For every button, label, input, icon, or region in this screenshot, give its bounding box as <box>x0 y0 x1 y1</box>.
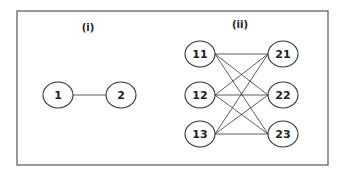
panel-2: (ii)111213212223 <box>185 19 298 147</box>
node-22: 22 <box>268 82 298 108</box>
panel-1: (i)12 <box>43 22 136 108</box>
panel-label: (i) <box>82 22 95 33</box>
node-11: 11 <box>185 41 215 67</box>
node-label: 13 <box>192 128 207 141</box>
node-21: 21 <box>268 41 298 67</box>
diagram-canvas: (i)12(ii)111213212223 <box>0 0 344 172</box>
node-13: 13 <box>185 121 215 147</box>
node-label: 11 <box>192 48 207 61</box>
panels: (i)12(ii)111213212223 <box>43 19 298 147</box>
node-2: 2 <box>106 82 136 108</box>
node-label: 2 <box>117 89 125 102</box>
node-label: 1 <box>54 89 62 102</box>
node-label: 22 <box>275 89 290 102</box>
node-1: 1 <box>43 82 73 108</box>
node-23: 23 <box>268 121 298 147</box>
node-label: 23 <box>275 128 290 141</box>
node-label: 12 <box>192 89 207 102</box>
node-12: 12 <box>185 82 215 108</box>
node-label: 21 <box>275 48 290 61</box>
panel-label: (ii) <box>232 19 248 30</box>
